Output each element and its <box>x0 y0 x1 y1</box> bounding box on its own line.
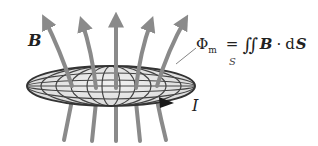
leader-line <box>176 48 196 64</box>
integral-surface-subscript: S <box>229 57 236 67</box>
diagram-graphic <box>0 0 318 146</box>
field-label-b: B <box>28 33 42 49</box>
current-loop-surface <box>20 66 200 106</box>
double-integral: ∬ <box>242 36 251 54</box>
equals-sign: = <box>226 37 239 52</box>
dot-operator: · <box>276 37 281 52</box>
phi-symbol: Φ <box>196 37 208 52</box>
differential-d: d <box>285 37 295 52</box>
current-label-i: I <box>192 98 198 114</box>
flux-formula: Φ m = ∬ B · d S <box>196 34 307 52</box>
flux-diagram: B I Φ m = ∬ B · d S S <box>0 0 318 146</box>
field-vector: B <box>260 37 273 52</box>
phi-subscript: m <box>208 46 217 55</box>
area-vector: S <box>296 37 307 52</box>
